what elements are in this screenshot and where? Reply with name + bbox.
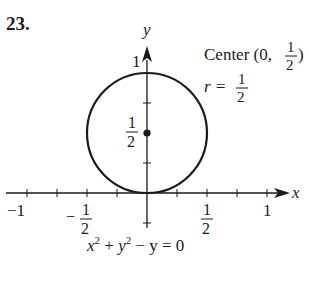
y-tick-half: 1 2 xyxy=(126,114,138,150)
svg-text:r =: r = xyxy=(204,77,226,96)
svg-text:2: 2 xyxy=(81,220,89,237)
equation-label: x2 + y2 − y = 0 xyxy=(86,234,184,255)
x-tick-neg1: −1 xyxy=(7,201,25,220)
radius-annotation: r = 1 2 xyxy=(204,71,248,105)
circle-graph: y x 1 1 2 −1 − 1 2 1 2 1 Center (0, 1 2 … xyxy=(0,0,309,283)
svg-text:Center (0,: Center (0, xyxy=(204,45,272,64)
svg-text:2: 2 xyxy=(202,220,210,237)
svg-text:2: 2 xyxy=(237,89,245,105)
svg-text:1: 1 xyxy=(128,114,136,131)
svg-text:x2 + y2 − y = 0: x2 + y2 − y = 0 xyxy=(86,234,184,255)
x-tick-neg-half: − 1 2 xyxy=(66,201,92,237)
center-point xyxy=(143,129,150,136)
x-tick-1: 1 xyxy=(263,201,272,220)
svg-text:): ) xyxy=(298,45,304,64)
svg-text:1: 1 xyxy=(287,39,295,55)
x-tick-half: 1 2 xyxy=(201,201,213,237)
svg-text:1: 1 xyxy=(82,201,90,218)
svg-text:2: 2 xyxy=(286,57,294,73)
y-axis-arrow-icon xyxy=(142,46,152,62)
svg-text:1: 1 xyxy=(203,201,211,218)
y-tick-1: 1 xyxy=(132,52,141,71)
y-axis-label: y xyxy=(141,20,151,39)
center-annotation: Center (0, 1 2 ) xyxy=(204,39,304,73)
svg-text:−: − xyxy=(66,208,75,225)
svg-text:1: 1 xyxy=(238,71,246,87)
svg-text:2: 2 xyxy=(127,133,135,150)
x-axis-label: x xyxy=(291,183,300,202)
